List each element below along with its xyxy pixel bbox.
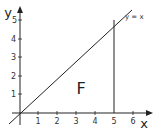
diagram-canvas: 1 2 3 4 5 6 1 2 3 4 5 x y y = x F: [0, 0, 160, 136]
x-tick-label-1: 1: [35, 117, 40, 126]
y-axis-arrow-icon: [17, 6, 23, 13]
y-tick-label-5: 5: [12, 16, 17, 25]
y-tick-label-2: 2: [11, 72, 16, 81]
x-axis-label: x: [140, 116, 148, 131]
y-tick-label-4: 4: [11, 35, 16, 44]
y-tick-label-1: 1: [11, 90, 16, 99]
region-label: F: [76, 79, 85, 98]
x-tick-label-3: 3: [73, 117, 78, 126]
x-tick-label-6: 6: [130, 117, 135, 126]
line-label: y = x: [125, 13, 144, 21]
y-axis-label: y: [4, 5, 12, 20]
x-tick-label-4: 4: [92, 117, 97, 126]
x-tick-label-2: 2: [54, 117, 59, 126]
x-tick-label-5: 5: [111, 117, 116, 126]
y-tick-label-3: 3: [11, 53, 16, 62]
